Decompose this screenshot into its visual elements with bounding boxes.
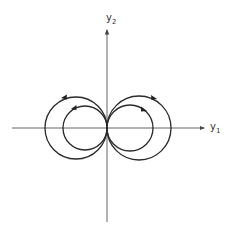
y2-axis-label: y2 bbox=[106, 12, 116, 26]
left-outer-arrow-icon bbox=[61, 95, 67, 100]
right-outer-arrow-icon bbox=[151, 95, 157, 100]
right-inner-arrow-icon bbox=[141, 107, 147, 112]
y1-label-subscript: 1 bbox=[216, 127, 220, 135]
phase-portrait-diagram: y2 y1 bbox=[0, 0, 233, 235]
y2-label-subscript: 2 bbox=[112, 18, 116, 26]
diagram-svg bbox=[0, 0, 233, 235]
y1-axis-label: y1 bbox=[210, 121, 220, 135]
left-inner-arrow-icon bbox=[71, 105, 77, 110]
